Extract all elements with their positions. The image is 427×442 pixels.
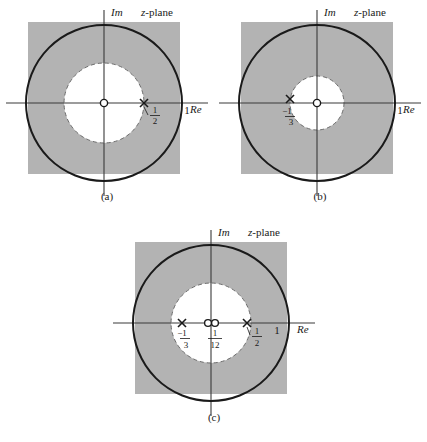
zero-marker-origin-a xyxy=(100,99,107,106)
zero-marker-one-twelfth-c xyxy=(212,320,219,327)
unit-tick-label-a: 1 xyxy=(184,104,190,116)
unit-tick-label-c: 1 xyxy=(274,324,280,336)
panel-caption-c: (c) xyxy=(107,411,321,423)
pole-label-half-denominator-c: 2 xyxy=(255,338,260,348)
zero-label-one-twelfth-denominator-c: 12 xyxy=(211,340,220,350)
real-axis-label-b: Re xyxy=(402,103,415,115)
real-axis-label-c: Re xyxy=(296,323,309,335)
pole-label-neg-third-num-c: 1 xyxy=(182,328,187,338)
zero-marker-origin-b xyxy=(313,99,320,106)
unit-tick-label-b: 1 xyxy=(397,104,403,116)
panel-caption-a: (a) xyxy=(0,190,214,202)
pole-label-neg-third-denominator-b: 3 xyxy=(289,117,294,127)
zero-label-one-twelfth-numerator-c: 1 xyxy=(213,328,218,338)
panel-b: Im z-plane Re 1 −1 3 (b) xyxy=(213,0,427,221)
zero-marker-origin-c xyxy=(205,320,212,327)
panel-a: Im z-plane Re 1 1 2 (a) xyxy=(0,0,214,221)
pole-label-neg-third-numerator-c: −1 xyxy=(177,328,187,338)
pole-label-half-denominator-a: 2 xyxy=(153,116,158,126)
imaginary-axis-label-a: Im xyxy=(110,6,123,18)
z-plane-label-suffix-b: -plane xyxy=(358,6,386,18)
pole-label-neg-third-num-b: 1 xyxy=(287,106,292,116)
pole-label-half-numerator-a: 1 xyxy=(153,105,158,115)
pole-label-neg-third-denominator-c: 3 xyxy=(184,340,189,350)
real-axis-label-a: Re xyxy=(189,103,202,115)
z-plane-diagram-b: Im z-plane Re 1 −1 3 xyxy=(213,0,427,200)
z-plane-label-a: z-plane xyxy=(140,6,173,18)
panel-c: Im z-plane Re 1 1 12 −1 3 1 xyxy=(107,220,321,442)
z-plane-label-b: z-plane xyxy=(353,6,386,18)
z-plane-label-suffix-a: -plane xyxy=(145,6,173,18)
pole-label-neg-third-numerator-b: −1 xyxy=(282,106,292,116)
imaginary-axis-label-c: Im xyxy=(217,226,230,238)
z-plane-label-c: z-plane xyxy=(247,226,280,238)
z-plane-diagram-c: Im z-plane Re 1 1 12 −1 3 1 xyxy=(107,220,321,420)
z-plane-label-suffix-c: -plane xyxy=(252,226,280,238)
z-plane-diagram-a: Im z-plane Re 1 1 2 xyxy=(0,0,214,200)
imaginary-axis-label-b: Im xyxy=(323,6,336,18)
pole-label-half-numerator-c: 1 xyxy=(255,326,260,336)
panel-caption-b: (b) xyxy=(213,190,427,202)
